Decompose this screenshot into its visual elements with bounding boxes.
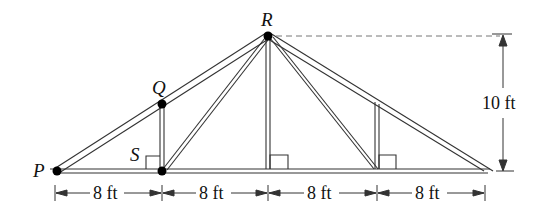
label-R: R [261, 10, 273, 29]
point-R [264, 32, 273, 41]
bottom-chord [50, 169, 490, 173]
king-post [266, 38, 270, 169]
point-P [53, 167, 62, 176]
right-angle-mark-center [270, 155, 288, 169]
point-Q [158, 100, 167, 109]
point-S [158, 167, 167, 176]
span-label-3: 8 ft [305, 184, 334, 202]
label-P: P [33, 161, 45, 180]
span-label-2: 8 ft [197, 184, 226, 202]
right-angle-mark-S [146, 156, 160, 169]
span-label-4: 8 ft [413, 184, 442, 202]
label-S: S [130, 145, 140, 164]
right-rafter [268, 33, 493, 171]
strut-QS [160, 102, 164, 169]
label-Q: Q [152, 78, 166, 97]
web-SR [163, 38, 268, 170]
truss-diagram [0, 0, 536, 217]
strut-right [375, 102, 379, 169]
span-label-1: 8 ft [91, 184, 120, 202]
web-R-right [270, 37, 378, 169]
right-angle-mark-right [379, 155, 396, 169]
height-label: 10 ft [480, 94, 518, 112]
